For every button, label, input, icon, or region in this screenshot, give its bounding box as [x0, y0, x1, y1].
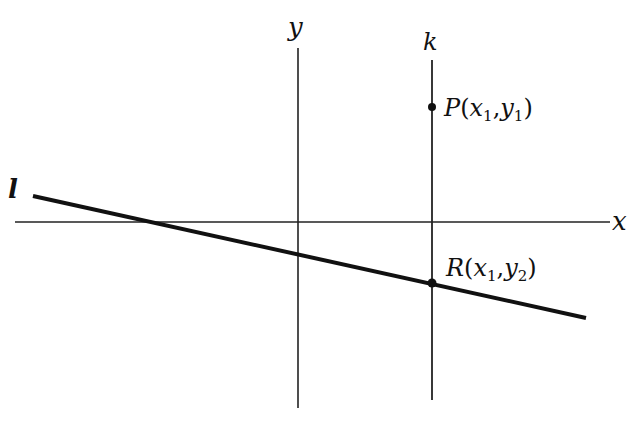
line-l-label: l: [8, 174, 18, 204]
point-r: [428, 279, 437, 288]
line-k-label: k: [423, 28, 438, 56]
x-axis-label: x: [612, 206, 627, 236]
y-axis-label: y: [287, 12, 303, 42]
point-p-label: P(x1,y1): [443, 94, 533, 125]
point-p: [428, 103, 436, 111]
point-r-label: R(x1,y2): [445, 254, 537, 285]
coordinate-diagram: y x k l P(x1,y1) R(x1,y2): [0, 0, 634, 427]
